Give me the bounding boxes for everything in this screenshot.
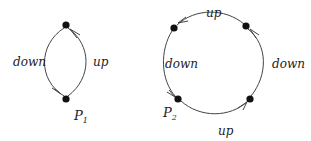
edge-label-up: up: [93, 55, 109, 69]
node-p2: [174, 95, 181, 102]
edge-label-up-top: up: [206, 6, 222, 20]
edge-label-down-right: down: [272, 57, 305, 71]
right-graph: up down down up P2: [162, 6, 305, 138]
arrowhead-down-icon: [52, 88, 61, 94]
diagram-canvas: down up P1 up down down up P2: [0, 0, 311, 141]
edge-up-bottom: [181, 101, 248, 114]
node-top-right: [242, 22, 249, 29]
node-label-p1: P1: [73, 108, 88, 125]
edge-label-up-bottom: up: [218, 124, 234, 138]
arrowhead-icon: [250, 29, 259, 38]
left-graph: down up P1: [13, 21, 109, 125]
edge-down-left: [45, 28, 65, 96]
node-p1: [62, 95, 69, 102]
edge-label-down: down: [13, 55, 46, 69]
node-top: [62, 21, 69, 28]
node-top-left: [170, 24, 177, 31]
edge-label-down-left: down: [165, 57, 198, 71]
node-bottom-right: [246, 95, 253, 102]
node-label-p2: P2: [162, 105, 177, 122]
edge-down-right-side: [248, 29, 263, 96]
edge-up-left: [68, 28, 86, 96]
